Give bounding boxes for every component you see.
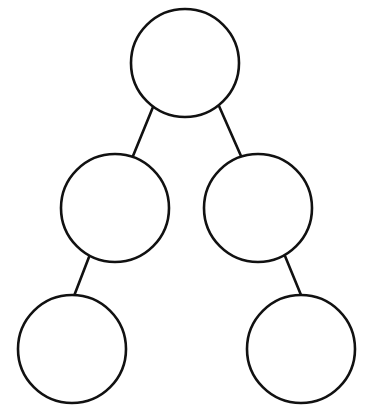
node-left-mid-circle: [61, 154, 169, 262]
node-bottom-right: [247, 295, 355, 403]
node-root: [131, 9, 239, 117]
node-right-mid: [204, 154, 312, 262]
edge-root-right-mid: [219, 106, 241, 156]
edge-root-left-mid: [133, 107, 153, 156]
tree-diagram: [0, 0, 367, 413]
node-bottom-left-circle: [18, 295, 126, 403]
node-bottom-right-circle: [247, 295, 355, 403]
node-bottom-left: [18, 295, 126, 403]
edge-right-mid-bottom-right: [285, 256, 301, 295]
edge-left-mid-bottom-left: [74, 257, 89, 296]
node-left-mid: [61, 154, 169, 262]
nodes: [18, 9, 355, 403]
node-right-mid-circle: [204, 154, 312, 262]
node-root-circle: [131, 9, 239, 117]
